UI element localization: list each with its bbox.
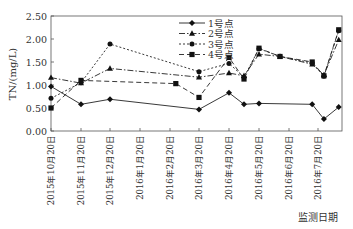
y-tick-label: 0.00 <box>26 126 47 137</box>
legend-label: 3号点 <box>208 39 234 50</box>
legend-item: 4号点 <box>179 49 234 60</box>
y-tick-label: 2.00 <box>26 34 47 45</box>
legend-item: 2号点 <box>179 28 234 39</box>
x-tick-label: 2016年1月20日 <box>135 135 145 200</box>
series-4 <box>48 27 341 110</box>
y-axis-label: TN/(mg/L) <box>7 48 18 101</box>
y-tick-label: 1.00 <box>26 80 47 91</box>
x-tick-label: 2015年12月20日 <box>105 135 115 205</box>
x-tick-label: 2016年3月20日 <box>194 135 204 200</box>
x-tick-label: 2015年10月20日 <box>46 135 56 205</box>
x-tick-label: 2016年5月20日 <box>254 135 264 200</box>
legend-item: 1号点 <box>179 18 234 29</box>
x-axis-label: 监测日期 <box>298 211 338 223</box>
x-tick-label: 2016年7月20日 <box>313 135 323 200</box>
series-lines <box>48 27 342 122</box>
series-2 <box>48 37 342 86</box>
legend-label: 2号点 <box>208 28 234 39</box>
y-tick-label: 2.50 <box>26 11 47 22</box>
x-tick-label: 2016年2月20日 <box>165 135 175 200</box>
legend-label: 4号点 <box>208 49 234 60</box>
x-tick-label: 2015年11月20日 <box>76 135 86 205</box>
series-3 <box>49 28 342 101</box>
legend-item: 3号点 <box>179 39 234 50</box>
y-tick-label: 1.50 <box>26 57 47 68</box>
series-1 <box>48 83 342 122</box>
line-chart: 0.000.501.001.502.002.502015年10月20日2015年… <box>0 0 353 229</box>
legend: 1号点2号点3号点4号点 <box>179 18 234 61</box>
legend-label: 1号点 <box>208 18 234 29</box>
x-tick-label: 2016年6月20日 <box>284 135 294 200</box>
x-tick-label: 2016年4月20日 <box>224 135 234 200</box>
y-tick-label: 0.50 <box>26 103 47 114</box>
